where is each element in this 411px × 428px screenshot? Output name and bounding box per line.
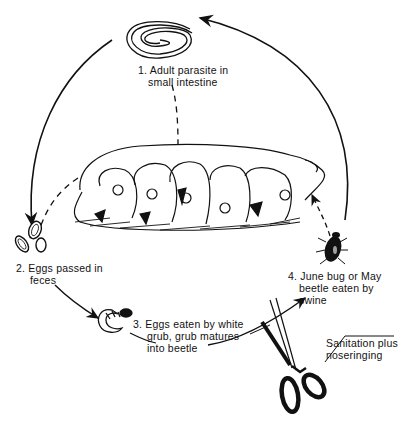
stage-3-number: 3. — [133, 318, 142, 330]
arrow-stage4-to-stage1 — [200, 18, 348, 220]
dashed-beetle-to-pig — [312, 195, 330, 236]
stage-4-label: 4. June bug or May beetle eaten by swine — [288, 270, 382, 306]
stage-3-line-2: grub, grub matures — [147, 330, 239, 342]
stage-4-line-3: swine — [299, 294, 327, 306]
stage-3-line-1: Eggs eaten by white — [145, 318, 243, 330]
stage-1-number: 1. — [138, 64, 147, 76]
sow-with-piglets-icon — [74, 144, 324, 230]
control-line-1: Sanitation plus — [326, 337, 398, 349]
worm-icon — [127, 22, 192, 59]
stage-2-number: 2. — [16, 262, 25, 274]
control-line-2: noseringing — [326, 349, 398, 361]
stage-1-line-1: Adult parasite in — [150, 64, 229, 76]
dashed-worm-to-pig — [172, 85, 178, 145]
grub-icon — [99, 309, 133, 332]
arrow-stage2-to-stage3 — [55, 285, 98, 318]
stage-2-line-1: Eggs passed in — [28, 262, 103, 274]
stage-3-line-3: into beetle — [147, 342, 198, 354]
stage-2-line-2: feces — [30, 274, 56, 286]
control-label: Sanitation plus noseringing — [326, 337, 398, 361]
stage-4-number: 4. — [288, 270, 297, 282]
stage-2-label: 2. Eggs passed in feces — [16, 262, 103, 286]
scissors-icon — [250, 298, 328, 413]
dashed-pig-to-eggs — [40, 178, 78, 228]
arrow-stage1-to-stage2 — [31, 40, 112, 225]
stage-1-line-2: small intestine — [148, 76, 218, 88]
stage-4-line-1: June bug or May — [300, 270, 381, 282]
stage-3-label: 3. Eggs eaten by white grub, grub mature… — [133, 318, 244, 354]
beetle-icon — [316, 232, 348, 264]
eggs-icon — [13, 219, 46, 254]
stage-1-label: 1. Adult parasite in small intestine — [138, 64, 228, 88]
stage-4-line-2: beetle eaten by — [299, 282, 374, 294]
